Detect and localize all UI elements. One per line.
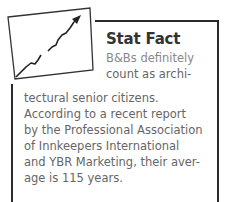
box-left-border <box>11 84 13 202</box>
text-line: by the Professional Association <box>24 122 216 138</box>
rising-chart-arrow-icon <box>0 0 100 85</box>
stat-fact-heading: Stat Fact <box>106 30 180 48</box>
text-line: count as archi- <box>106 66 216 82</box>
box-top-border <box>95 20 219 22</box>
text-line: and YBR Marketing, their aver- <box>24 154 216 170</box>
text-line: B&Bs definitely <box>106 50 216 66</box>
text-line: age is 115 years. <box>24 170 216 186</box>
box-right-border <box>217 20 219 202</box>
text-line: tectural senior citizens. <box>24 90 216 106</box>
text-line: of Innkeepers International <box>24 138 216 154</box>
text-line: According to a recent report <box>24 106 216 122</box>
stat-fact-lead-text: B&Bs definitely count as archi- <box>106 50 216 82</box>
stat-fact-body-text: tectural senior citizens. According to a… <box>24 90 216 186</box>
